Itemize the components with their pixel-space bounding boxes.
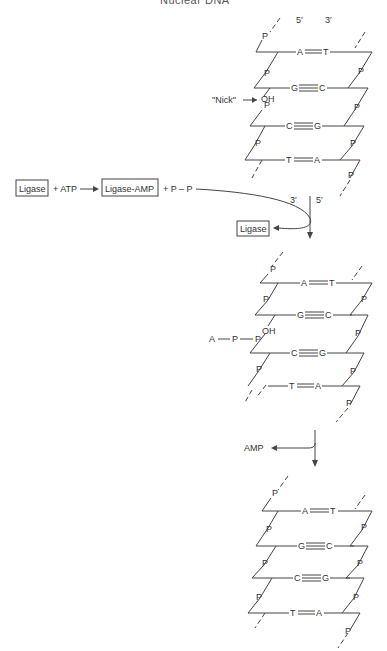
base-a: A [297,47,303,57]
ligase-diagram: 5′ 3′ P P P P A T G C C G T A [0,0,387,651]
base-g: G [322,573,329,583]
phosphate-label: P [263,294,269,304]
amp-label: AMP [244,443,264,453]
base-a: A [316,608,322,618]
ligase-label: Ligase [19,184,46,194]
base-g: G [314,121,321,131]
base-t: T [329,278,335,288]
base-g: G [291,83,298,93]
base-t: T [290,608,296,618]
base-c: C [326,541,333,551]
base-t: T [323,47,329,57]
base-c: C [294,573,301,583]
phosphate-label: P [346,398,352,408]
base-t: T [286,155,292,165]
phosphate-label: P [255,334,261,344]
phosphate-label: P [262,31,268,41]
bottom-helix: P P P P A T G C C G T A P P [248,476,372,648]
released-ligase-label: Ligase [240,224,267,234]
phosphate-label: P [358,66,364,76]
base-g: G [298,541,305,551]
adenosine-label: A [209,334,215,344]
phosphate-label: P [256,592,262,602]
phosphate-label: P [353,592,359,602]
base-g: G [319,348,326,358]
phosphate-label: P [355,328,361,338]
pyrophosphate-label: + P – P [163,184,193,194]
base-g: G [297,310,304,320]
phosphate-label: P [266,524,272,534]
phosphate-label: P [264,68,270,78]
phosphate-label: P [272,488,278,498]
phosphate-label: P [357,558,363,568]
phosphate-label: P [361,294,367,304]
three-prime-label: 3′ [325,15,332,25]
ligase-amp-label: Ligase-AMP [105,184,154,194]
phosphate-label: P [348,170,354,180]
nick-label: "Nick" [212,95,236,105]
amp-release: AMP [244,430,318,467]
phosphate-label: P [270,264,276,274]
phosphate-label: P [354,102,360,112]
base-t: T [289,381,295,391]
five-prime-label: 5′ [316,195,323,205]
oh-label: OH [261,94,275,104]
top-helix: 5′ 3′ P P P P A T G C C G T A [212,15,372,196]
base-c: C [325,310,332,320]
plus-atp-label: + ATP [53,184,77,194]
phosphate-label: P [361,522,367,532]
base-a: A [314,155,320,165]
phosphate-label: P [232,334,238,344]
base-c: C [291,348,298,358]
phosphate-label: P [350,138,356,148]
three-prime-label: 3′ [290,195,297,205]
base-t: T [330,506,336,516]
base-c: C [319,83,326,93]
base-c: C [286,121,293,131]
base-a: A [301,278,307,288]
base-a: A [315,381,321,391]
phosphate-label: P [345,626,351,636]
five-prime-label: 5′ [296,15,303,25]
base-a: A [302,506,308,516]
middle-helix: P P P A T G C C G T A P [209,252,372,422]
phosphate-label: P [350,366,356,376]
phosphate-label: P [256,364,262,374]
oh-label: OH [262,326,276,336]
ligase-activation-reaction: Ligase + ATP Ligase-AMP + P – P Ligase 3… [16,179,323,239]
phosphate-label: P [255,138,261,148]
phosphate-label: P [262,558,268,568]
